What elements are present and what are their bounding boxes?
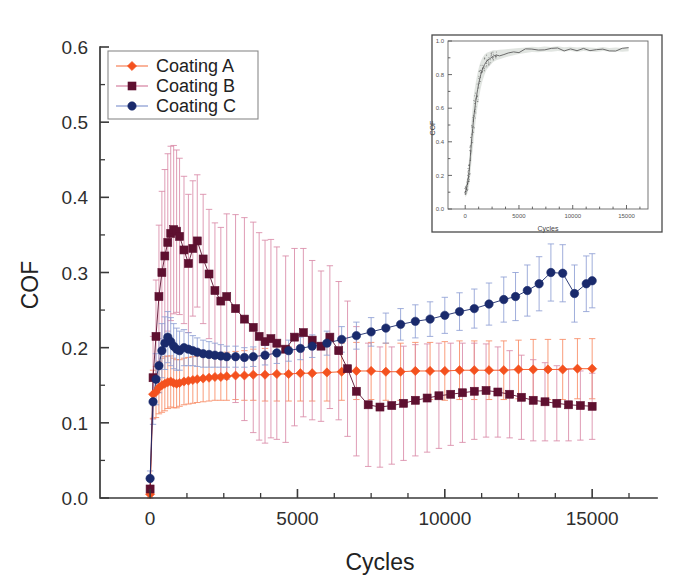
data-point-marker (381, 367, 390, 376)
inset-x-tick-label: 10000 (564, 213, 581, 219)
inset-scatter-point (482, 69, 483, 70)
inset-x-tick-label: 5000 (512, 213, 526, 219)
y-axis-title: COF (17, 261, 43, 310)
data-point-marker (411, 396, 419, 404)
inset-scatter-point (466, 182, 467, 183)
inset-x-axis-title: Cycles (537, 225, 559, 233)
data-point-marker (176, 232, 184, 240)
inset-y-axis-title: COF (429, 121, 436, 136)
x-tick-label: 5000 (276, 508, 318, 529)
data-point-marker (260, 370, 269, 379)
data-point-marker (411, 317, 419, 325)
data-point-marker (352, 387, 360, 395)
data-point-marker (435, 392, 443, 400)
data-point-marker (249, 352, 257, 360)
inset-scatter-point (467, 186, 468, 187)
inset-scatter-point (488, 63, 489, 64)
inset-scatter-point (466, 191, 467, 192)
inset-scatter-point (474, 95, 475, 96)
data-point-marker (161, 252, 169, 260)
inset-background (432, 35, 662, 232)
inset-scatter-point (470, 150, 471, 151)
inset-scatter-point (470, 153, 471, 154)
data-point-marker (223, 352, 231, 360)
legend-entry-label: Coating A (156, 56, 234, 76)
inset-scatter-point (471, 140, 472, 141)
data-point-marker (240, 371, 249, 380)
data-point-marker (232, 305, 240, 313)
data-point-marker (426, 315, 434, 323)
inset-scatter-point (479, 83, 480, 84)
inset-scatter-point (467, 180, 468, 181)
data-point-marker (423, 394, 431, 402)
data-point-marker (164, 238, 172, 246)
data-point-marker (180, 246, 188, 254)
inset-scatter-point (465, 187, 466, 188)
inset-scatter-point (477, 95, 478, 96)
data-point-marker (529, 396, 537, 404)
data-point-marker (152, 332, 160, 340)
inset-scatter-point (468, 170, 469, 171)
data-point-marker (308, 369, 317, 378)
data-point-marker (506, 390, 514, 398)
y-tick-label: 0.6 (62, 37, 88, 58)
inset-scatter-point (488, 65, 489, 66)
inset-scatter-point (495, 57, 496, 58)
data-point-marker (447, 390, 455, 398)
inset-scatter-point (480, 72, 481, 73)
inset-scatter-point (466, 188, 467, 189)
data-point-marker (337, 335, 345, 343)
legend-entry-label: Coating B (156, 76, 235, 96)
data-point-marker (517, 393, 525, 401)
data-point-marker (323, 339, 331, 347)
inset-scatter-point (477, 101, 478, 102)
inset-scatter-point (469, 169, 470, 170)
inset-scatter-point (467, 171, 468, 172)
data-point-marker (470, 304, 478, 312)
data-point-marker (152, 375, 160, 383)
inset-scatter-point (482, 65, 483, 66)
inset-scatter-point (477, 99, 478, 100)
data-point-marker (565, 401, 573, 409)
inset-scatter-point (477, 83, 478, 84)
inset-scatter-point (478, 71, 479, 72)
inset-scatter-point (495, 56, 496, 57)
inset-scatter-point (475, 109, 476, 110)
legend-swatch-marker (128, 102, 136, 110)
inset-scatter-point (486, 66, 487, 67)
chart-canvas: 0.00.10.20.30.40.50.6050001000015000 COF… (0, 0, 692, 586)
data-point-marker (500, 295, 508, 303)
x-tick-label: 0 (145, 508, 156, 529)
data-point-marker (482, 387, 490, 395)
inset-scatter-point (472, 117, 473, 118)
inset-scatter-point (471, 133, 472, 134)
inset-scatter-point (479, 81, 480, 82)
legend-swatch-marker (128, 82, 136, 90)
inset-scatter-point (480, 77, 481, 78)
data-point-marker (440, 366, 449, 375)
inset-scatter-point (478, 87, 479, 88)
data-point-marker (558, 365, 567, 374)
data-point-marker (155, 293, 163, 301)
inset-scatter-point (491, 53, 492, 54)
data-point-marker (396, 320, 404, 328)
data-point-marker (335, 347, 343, 355)
inset-scatter-point (486, 60, 487, 61)
inset-scatter-point (486, 63, 487, 64)
inset-y-tick-label: 0.0 (436, 206, 445, 212)
data-point-marker (547, 268, 555, 276)
y-tick-label: 0.0 (62, 488, 88, 509)
data-point-marker (382, 324, 390, 332)
inset-scatter-point (467, 184, 468, 185)
data-point-marker (558, 269, 566, 277)
inset-scatter-point (473, 126, 474, 127)
inset-scatter-point (490, 62, 491, 63)
inset-scatter-point (496, 51, 497, 52)
inset-scatter-point (467, 179, 468, 180)
y-tick-label: 0.1 (62, 413, 88, 434)
data-point-marker (588, 402, 596, 410)
inset-y-tick-label: 0.6 (436, 105, 445, 111)
data-point-marker (205, 270, 213, 278)
inset-scatter-point (493, 59, 494, 60)
data-point-marker (146, 474, 154, 482)
